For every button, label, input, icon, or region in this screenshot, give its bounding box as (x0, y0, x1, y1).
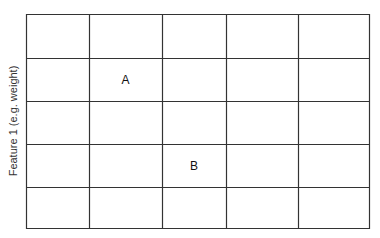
grid (0, 0, 380, 238)
y-axis-label: Feature 1 (e.g. weight) (7, 66, 19, 177)
diagram-canvas: Feature 1 (e.g. weight) A B (0, 0, 380, 238)
point-label-a: A (121, 73, 129, 87)
point-label-b: B (190, 159, 198, 173)
